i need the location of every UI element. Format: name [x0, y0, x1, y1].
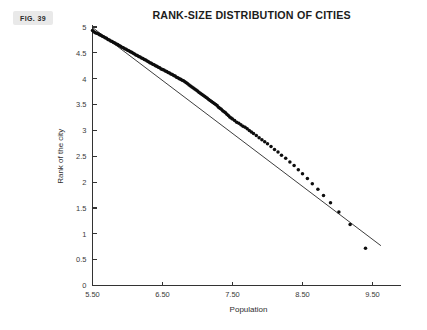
data-point	[364, 247, 368, 251]
data-point	[316, 188, 320, 192]
axes-group	[93, 25, 401, 286]
data-point	[329, 201, 333, 205]
data-point	[301, 172, 305, 176]
data-point	[348, 223, 352, 227]
data-point	[260, 138, 264, 142]
x-tick-label: 5.50	[85, 290, 100, 299]
y-tick-label: 4	[82, 75, 86, 84]
y-tick-label: 2	[82, 178, 86, 187]
y-tick-label: 5	[82, 23, 86, 32]
data-point	[269, 145, 273, 149]
y-tick-label: 4.5	[76, 49, 86, 58]
data-point	[273, 148, 277, 152]
data-point	[288, 160, 292, 164]
x-tick-label: 6.50	[155, 290, 170, 299]
data-point	[306, 177, 310, 181]
data-point	[292, 164, 296, 168]
data-point	[280, 153, 284, 157]
y-tick-label: 0	[82, 281, 86, 290]
y-axis-ticks: 00.511.522.533.544.55	[76, 23, 96, 291]
data-point	[297, 168, 301, 172]
y-tick-label: 3	[82, 126, 86, 135]
axis-lines	[93, 25, 401, 286]
y-tick-label: 1.5	[76, 204, 86, 213]
data-point	[263, 140, 267, 144]
figure-container: FIG. 39 RANK-SIZE DISTRIBUTION OF CITIES…	[0, 0, 427, 330]
data-point	[266, 142, 270, 146]
x-axis-ticks: 5.506.507.508.509.50	[85, 282, 380, 299]
data-point	[255, 134, 259, 138]
data-points-group	[91, 29, 368, 250]
data-point	[252, 132, 256, 136]
data-point	[284, 157, 288, 161]
y-tick-label: 3.5	[76, 100, 86, 109]
rank-size-scatter-plot: 5.506.507.508.509.50 00.511.522.533.544.…	[0, 0, 427, 330]
x-tick-label: 7.50	[225, 290, 240, 299]
x-axis-label: Population	[230, 305, 268, 314]
data-point	[322, 194, 326, 198]
y-axis-label: Rank of the city	[56, 129, 65, 184]
y-tick-label: 1	[82, 230, 86, 239]
data-point	[337, 210, 341, 214]
y-tick-label: 0.5	[76, 255, 86, 264]
x-tick-label: 9.50	[365, 290, 380, 299]
data-point	[257, 136, 261, 140]
x-tick-label: 8.50	[295, 290, 310, 299]
y-tick-label: 2.5	[76, 152, 86, 161]
data-point	[276, 150, 280, 154]
data-point	[311, 182, 315, 186]
